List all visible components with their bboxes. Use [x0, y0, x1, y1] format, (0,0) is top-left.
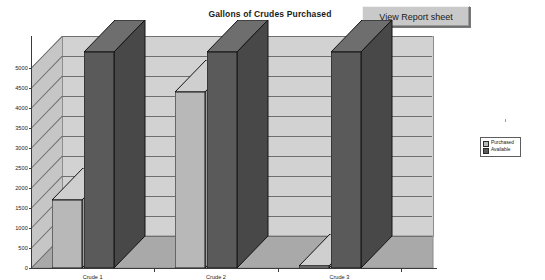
legend-swatch-available: [483, 148, 489, 154]
x-axis-tick-mark: [278, 268, 279, 272]
x-axis-tick-mark: [154, 268, 155, 272]
bar-purchased-2: [175, 92, 205, 268]
y-axis-tick-label: 1000: [0, 225, 28, 231]
bar-purchased-1: [52, 200, 82, 268]
bar-3d-shape: [331, 20, 393, 269]
legend-swatch-purchased: [483, 141, 489, 147]
stray-mark: [505, 119, 506, 122]
chart-plot-area: 0500100015002000250030003500400045005000…: [0, 28, 470, 260]
y-axis-tick-label: 3000: [0, 145, 28, 151]
y-axis-tick-label: 2500: [0, 165, 28, 171]
x-axis-category-label: Crude 1: [63, 274, 123, 280]
bar-available-1: [84, 52, 114, 268]
legend-label-purchased: Purchased: [491, 141, 514, 146]
x-axis-category-label: Crude 2: [186, 274, 246, 280]
y-axis-tick-label: 2000: [0, 185, 28, 191]
legend-item-available: Available: [483, 148, 518, 154]
x-axis-line: [31, 268, 437, 269]
y-axis-tick-label: 3500: [0, 125, 28, 131]
y-axis-line: [31, 36, 32, 268]
y-axis-tick-label: 4000: [0, 105, 28, 111]
y-axis-tick-label: 1500: [0, 205, 28, 211]
y-axis-tick-label: 500: [0, 245, 28, 251]
legend-item-purchased: Purchased: [483, 141, 518, 147]
page-title: Gallons of Crudes Purchased: [150, 9, 390, 19]
y-axis-tick-label: 5000: [0, 65, 28, 71]
bar-3d-shape: [84, 20, 146, 269]
bar-available-3: [331, 52, 361, 268]
y-axis-tick-label: 4500: [0, 85, 28, 91]
x-axis-tick-mark: [401, 268, 402, 272]
legend-label-available: Available: [491, 148, 510, 153]
x-axis-category-label: Crude 3: [309, 274, 369, 280]
bar-available-2: [207, 52, 237, 268]
y-axis-tick-label: 0: [0, 265, 28, 271]
bar-3d-shape: [207, 20, 269, 269]
chart-legend: Purchased Available: [480, 137, 521, 157]
